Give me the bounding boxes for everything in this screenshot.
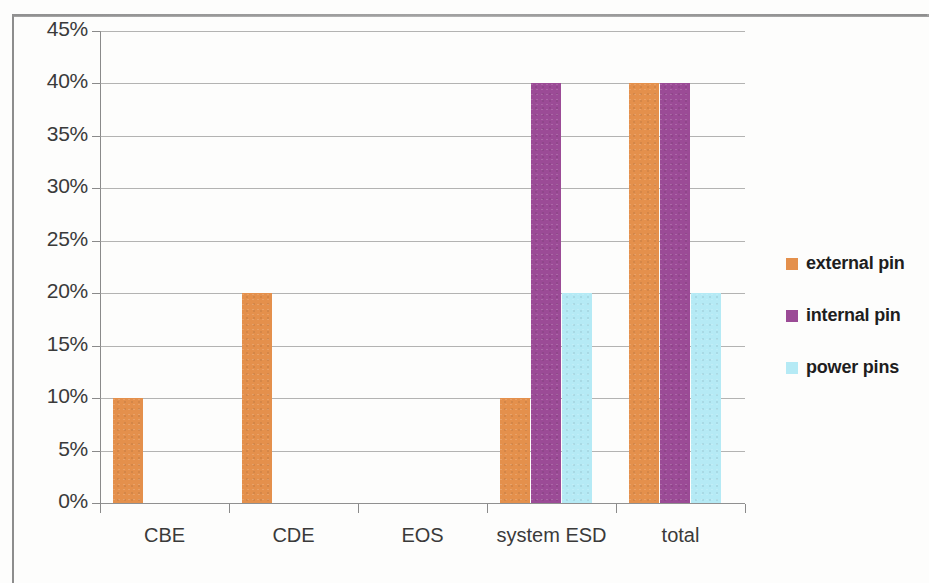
y-tick-mark [92,83,100,84]
legend-label: external pin [806,253,905,274]
x-axis-label-cbe: CBE [100,524,229,547]
x-tick-mark [616,504,617,513]
x-tick-mark [229,504,230,513]
x-axis-label-cde: CDE [229,524,358,547]
legend-item-internal-pin[interactable]: internal pin [786,298,926,333]
bar [562,293,592,503]
bar [242,293,272,503]
x-tick-mark [745,504,746,513]
y-tick-mark [92,346,100,347]
y-tick-label: 20% [26,279,88,303]
legend-label: internal pin [806,305,901,326]
y-tick-label: 0% [26,489,88,513]
y-tick-mark [92,398,100,399]
bar [531,83,561,503]
x-axis-label-eos: EOS [358,524,487,547]
y-tick-label: 35% [26,122,88,146]
y-tick-label: 45% [26,17,88,41]
y-tick-mark [92,451,100,452]
legend-label: power pins [806,357,899,378]
bar [500,398,530,503]
x-axis-label-system-esd: system ESD [487,524,616,547]
y-tick-label: 5% [26,437,88,461]
y-tick-label: 25% [26,227,88,251]
chart-legend: external pininternal pinpower pins [786,246,926,402]
y-tick-label: 30% [26,174,88,198]
y-tick-mark [92,241,100,242]
y-tick-mark [92,293,100,294]
y-tick-mark [92,188,100,189]
y-tick-mark [92,136,100,137]
bars-layer [100,31,745,503]
chart-page: 45%40%35%30%25%20%15%10%5%0% CBECDEEOSsy… [0,0,929,583]
y-tick-mark [92,503,100,504]
legend-item-power-pins[interactable]: power pins [786,350,926,385]
x-tick-mark [487,504,488,513]
legend-item-external-pin[interactable]: external pin [786,246,926,281]
x-axis-label-total: total [616,524,745,547]
y-tick-label: 40% [26,69,88,93]
bar [660,83,690,503]
legend-swatch-icon [786,362,798,374]
legend-swatch-icon [786,310,798,322]
gridline-0 [100,503,745,504]
y-tick-mark [92,31,100,32]
bar [629,83,659,503]
x-tick-mark [100,504,101,513]
y-tick-label: 10% [26,384,88,408]
bar [113,398,143,503]
y-tick-label: 15% [26,332,88,356]
x-tick-mark [358,504,359,513]
y-axis-labels: 45%40%35%30%25%20%15%10%5%0% [12,0,88,583]
legend-swatch-icon [786,258,798,270]
bar [691,293,721,503]
